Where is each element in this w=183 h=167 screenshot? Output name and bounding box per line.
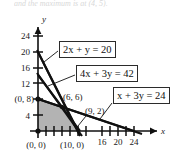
point-label-10-0: (10, 0) (60, 140, 84, 150)
equation-label-4x-plus-3y-42: 4x + 3y = 42 (76, 65, 138, 82)
y-tick-label-4: 4 (26, 111, 31, 121)
y-axis-label: y (41, 14, 46, 24)
equation-label-2x-plus-y-20: 2x + y = 20 (59, 41, 116, 58)
point-label-0-0: (0, 0) (26, 140, 46, 150)
leader-line-1 (44, 51, 58, 62)
vertex-dot-0-8 (35, 96, 40, 101)
vertex-dot-6-6 (60, 105, 64, 109)
point-label-6-6: (6, 6) (63, 92, 83, 102)
point-label-0-8: (0, 8) (15, 94, 35, 104)
figure-page: and the maximum is at (4, 5). (0, 0, 183, 167)
linear-programming-graph: 24 20 16 12 4 16 20 24 x y (0, 8) (0, 0)… (0, 0, 183, 167)
vertex-dot-origin (35, 128, 40, 133)
point-label-9-2: (9, 2) (85, 106, 105, 116)
y-tick-label-20: 20 (21, 47, 31, 57)
x-axis-arrowhead (150, 128, 157, 135)
x-axis-label: x (160, 126, 165, 136)
equation-label-x-plus-3y-24: x + 3y = 24 (113, 87, 170, 104)
x-tick-label-20: 20 (114, 137, 124, 147)
y-tick-label-16: 16 (21, 63, 31, 73)
y-tick-label-12: 12 (21, 79, 30, 89)
x-tick-label-16: 16 (98, 137, 108, 147)
leader-line-9-2 (78, 116, 86, 126)
y-tick-label-24: 24 (21, 31, 31, 41)
y-axis-arrowhead (35, 27, 42, 34)
x-tick-label-24: 24 (130, 137, 140, 147)
